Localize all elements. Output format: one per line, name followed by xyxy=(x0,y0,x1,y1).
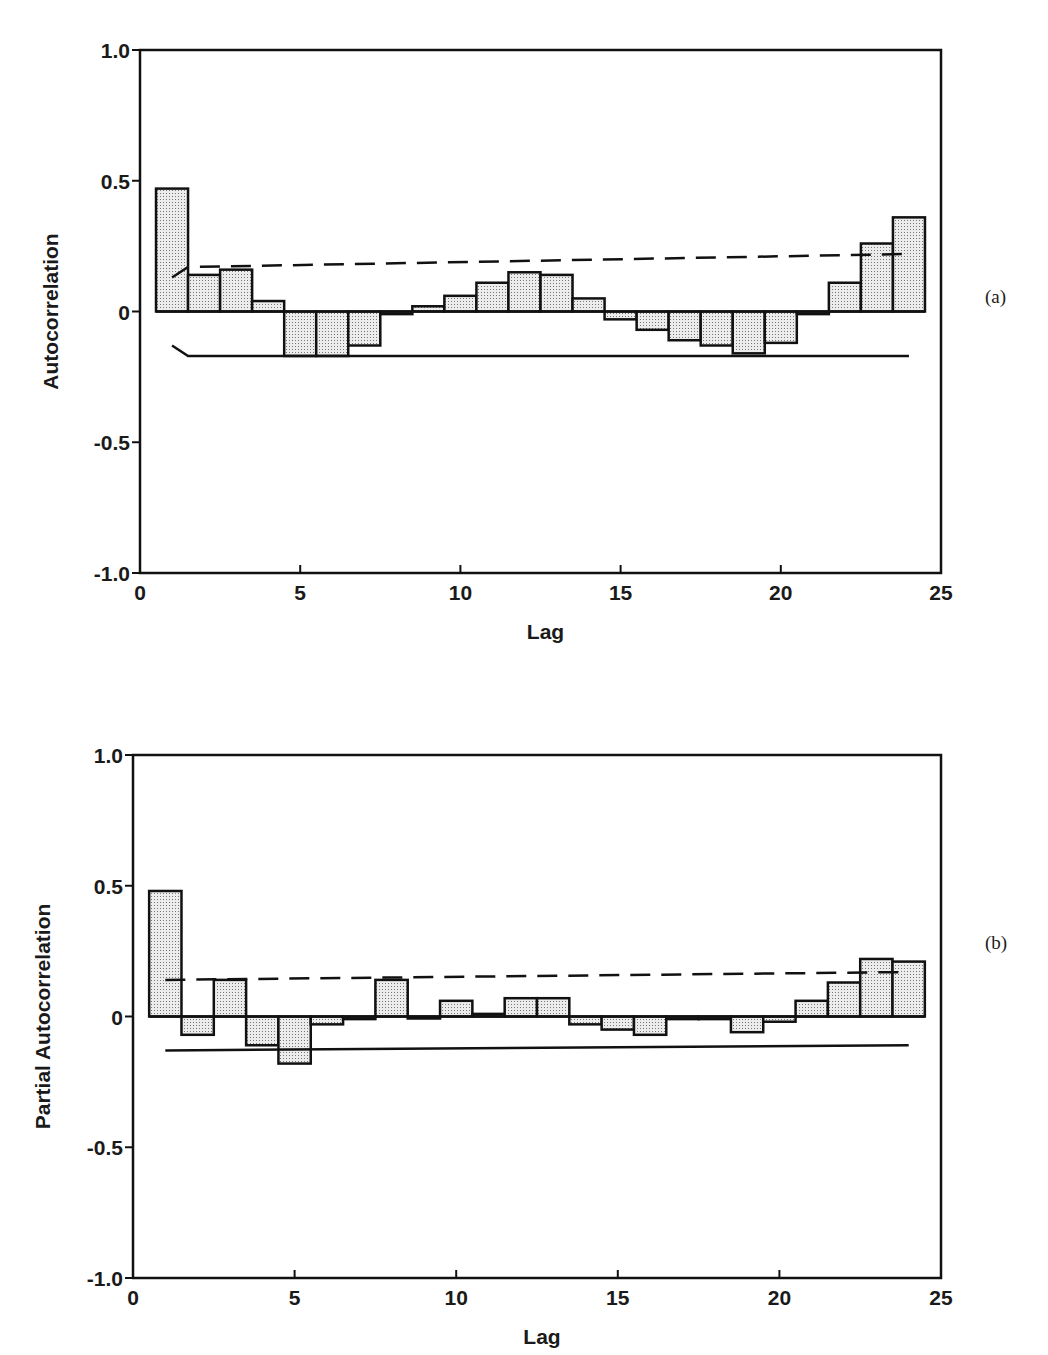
bar-lag-1 xyxy=(156,189,188,312)
pacf-panel: 1.00.50-0.5-1.00510152025LagPartial Auto… xyxy=(0,700,1048,1355)
bar-lag-24 xyxy=(893,217,925,311)
bar-series xyxy=(149,891,925,1064)
acf-panel: 1.00.50-0.5-1.00510152025LagAutocorrelat… xyxy=(0,0,1048,680)
bar-series xyxy=(156,189,925,356)
y-tick-label: -1.0 xyxy=(87,1267,123,1290)
x-tick-label: 25 xyxy=(929,1286,953,1309)
x-tick-label: 15 xyxy=(606,1286,630,1309)
panel-label-b: (b) xyxy=(985,932,1007,954)
bar-lag-5 xyxy=(278,1017,310,1064)
pacf-chart: 1.00.50-0.5-1.00510152025LagPartial Auto… xyxy=(0,700,1048,1355)
bar-lag-10 xyxy=(440,1001,472,1017)
bar-lag-7 xyxy=(348,312,380,346)
bar-lag-20 xyxy=(765,312,797,343)
x-tick-label: 0 xyxy=(134,581,146,604)
y-tick-label: -0.5 xyxy=(87,1136,124,1159)
y-axis-title: Partial Autocorrelation xyxy=(31,904,54,1130)
bar-lag-15 xyxy=(602,1017,634,1030)
y-tick-label: -1.0 xyxy=(94,562,130,585)
x-tick-label: 5 xyxy=(289,1286,301,1309)
x-tick-label: 20 xyxy=(769,581,792,604)
x-axis-title: Lag xyxy=(527,620,564,643)
bar-lag-11 xyxy=(476,283,508,312)
x-tick-label: 15 xyxy=(609,581,633,604)
x-tick-label: 10 xyxy=(445,1286,468,1309)
bar-lag-22 xyxy=(828,983,860,1017)
y-tick-label: 0 xyxy=(118,301,130,324)
bar-lag-3 xyxy=(214,980,246,1017)
bar-lag-4 xyxy=(246,1017,278,1046)
bar-lag-5 xyxy=(284,312,316,356)
bar-lag-19 xyxy=(731,1017,763,1033)
bar-lag-16 xyxy=(634,1017,666,1035)
y-tick-label: -0.5 xyxy=(94,431,131,454)
panel-label-a: (a) xyxy=(985,286,1006,308)
bar-lag-14 xyxy=(573,298,605,311)
x-tick-label: 25 xyxy=(929,581,953,604)
bar-lag-12 xyxy=(505,998,537,1016)
x-axis-title: Lag xyxy=(523,1325,560,1348)
bar-lag-2 xyxy=(181,1017,213,1035)
bar-lag-21 xyxy=(796,1001,828,1017)
y-tick-label: 0.5 xyxy=(94,875,124,898)
bar-lag-24 xyxy=(893,962,925,1017)
y-tick-label: 1.0 xyxy=(101,39,130,62)
bar-lag-13 xyxy=(541,275,573,312)
x-tick-label: 20 xyxy=(768,1286,791,1309)
bar-lag-13 xyxy=(537,998,569,1016)
bar-lag-10 xyxy=(444,296,476,312)
y-axis-title: Autocorrelation xyxy=(39,233,62,389)
y-tick-label: 1.0 xyxy=(94,744,123,767)
bar-lag-22 xyxy=(829,283,861,312)
acf-chart: 1.00.50-0.5-1.00510152025LagAutocorrelat… xyxy=(0,0,1048,680)
bar-lag-8 xyxy=(375,980,407,1017)
x-tick-label: 10 xyxy=(449,581,472,604)
bar-lag-19 xyxy=(733,312,765,354)
x-tick-label: 0 xyxy=(127,1286,139,1309)
bar-lag-6 xyxy=(316,312,348,356)
bar-lag-4 xyxy=(252,301,284,311)
lower-confidence-band xyxy=(172,345,909,355)
bar-lag-18 xyxy=(701,312,733,346)
bar-lag-12 xyxy=(508,272,540,311)
bar-lag-23 xyxy=(860,959,892,1017)
bar-lag-17 xyxy=(669,312,701,341)
x-tick-label: 5 xyxy=(294,581,306,604)
bar-lag-16 xyxy=(637,312,669,330)
bar-lag-2 xyxy=(188,275,220,312)
bar-lag-1 xyxy=(149,891,181,1017)
y-tick-label: 0 xyxy=(111,1006,123,1029)
y-tick-label: 0.5 xyxy=(101,170,131,193)
bar-lag-3 xyxy=(220,270,252,312)
upper-confidence-band xyxy=(165,972,908,980)
